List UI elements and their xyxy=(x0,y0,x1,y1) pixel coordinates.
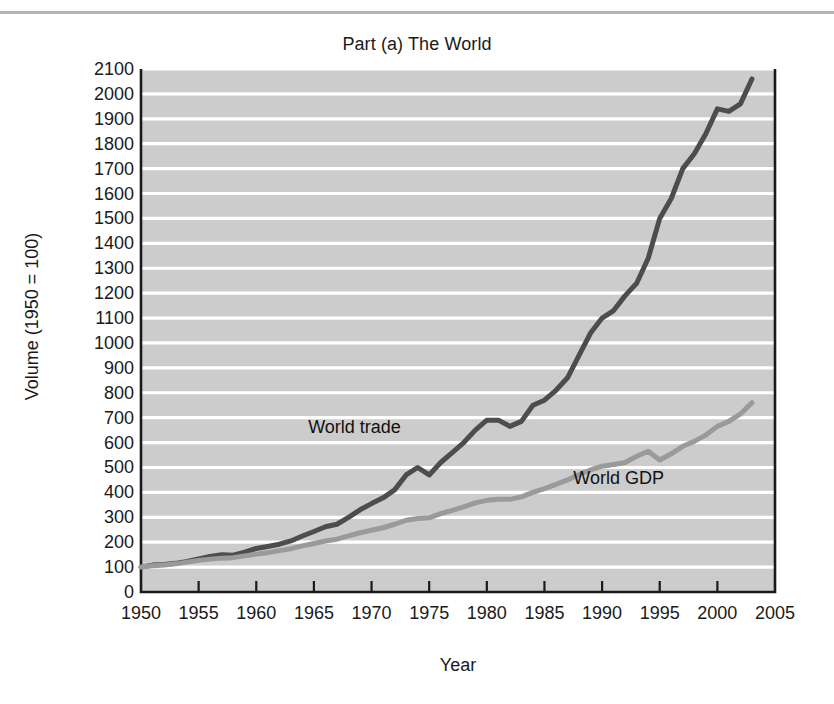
series-label-world-gdp: World GDP xyxy=(573,468,664,489)
series-label-world-trade: World trade xyxy=(308,417,401,438)
x-axis-tick-labels: 1950195519601965197019751980198519901995… xyxy=(0,0,834,704)
chart-figure: Part (a) The World Volume (1950 = 100) Y… xyxy=(0,0,834,704)
x-tick-label-2005: 2005 xyxy=(740,604,810,622)
